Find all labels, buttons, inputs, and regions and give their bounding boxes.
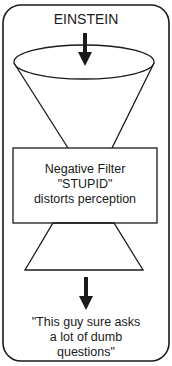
- filter-line-1: Negative Filter: [12, 162, 158, 177]
- lower-trapezoid: [25, 223, 143, 270]
- filter-description: Negative Filter "STUPID" distorts percep…: [12, 162, 158, 207]
- input-arrow-icon: [78, 33, 92, 66]
- filter-line-3: distorts perception: [12, 192, 158, 207]
- input-label: EINSTEIN: [0, 12, 172, 27]
- output-arrow-icon: [79, 277, 93, 310]
- funnel-right-edge: [112, 63, 154, 148]
- filter-line-2: "STUPID": [12, 177, 158, 192]
- output-line-1: "This guy sure asks: [10, 315, 162, 330]
- output-line-3: questions": [10, 345, 162, 360]
- output-quote: "This guy sure asks a lot of dumb questi…: [10, 315, 162, 360]
- output-line-2: a lot of dumb: [10, 330, 162, 345]
